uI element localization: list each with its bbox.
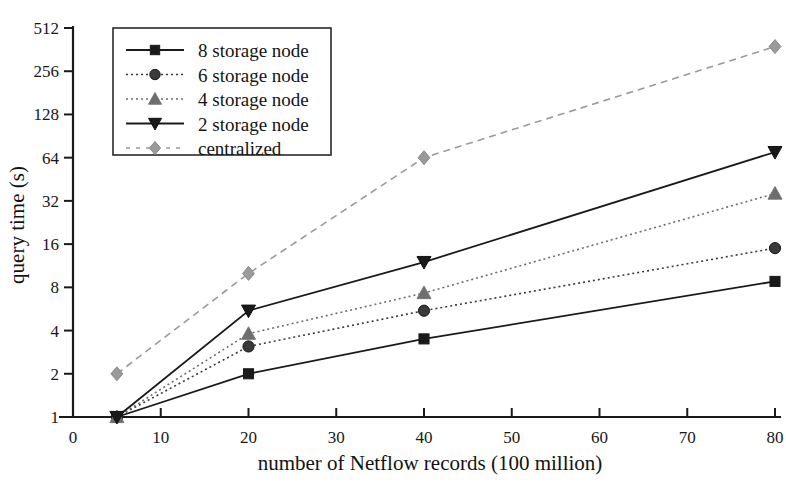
data-point-marker-square (770, 276, 780, 286)
data-point-marker-diamond (769, 40, 781, 54)
data-point-marker-diamond (111, 367, 123, 381)
series-3 (110, 146, 782, 424)
y-tick-label-256: 256 (34, 62, 60, 81)
x-tick-label-40: 40 (416, 428, 433, 447)
x-tick-label-60: 60 (591, 428, 608, 447)
series-line-0 (117, 281, 775, 417)
data-point-marker-square (419, 334, 429, 344)
query-time-line-chart: 1248163264128256512 01020304050607080 nu… (0, 0, 786, 486)
chart-legend: 8 storage node6 storage node4 storage no… (113, 28, 331, 159)
y-tick-label-16: 16 (42, 235, 59, 254)
data-point-marker-square (243, 369, 253, 379)
y-tick-label-1: 1 (51, 408, 60, 427)
data-point-marker-triangle-up (768, 187, 782, 200)
series-line-3 (117, 152, 775, 417)
y-axis-ticks: 1248163264128256512 (34, 19, 74, 427)
y-tick-label-128: 128 (34, 105, 60, 124)
data-point-marker-circle (418, 305, 429, 316)
data-point-marker-diamond (243, 266, 255, 280)
x-tick-label-30: 30 (328, 428, 345, 447)
legend-label-2: 4 storage node (198, 89, 309, 110)
legend-label-3: 2 storage node (198, 114, 309, 135)
y-tick-label-2: 2 (51, 365, 60, 384)
series-line-1 (117, 248, 775, 417)
x-tick-label-70: 70 (679, 428, 696, 447)
chart-page: 1248163264128256512 01020304050607080 nu… (0, 0, 786, 486)
x-axis-title: number of Netflow records (100 million) (258, 451, 603, 475)
data-point-marker-diamond (418, 151, 430, 165)
data-point-marker-circle (769, 243, 780, 254)
y-tick-label-4: 4 (51, 322, 60, 341)
y-tick-label-512: 512 (34, 19, 60, 38)
x-tick-label-80: 80 (767, 428, 784, 447)
series-line-2 (117, 194, 775, 417)
y-tick-label-8: 8 (51, 278, 60, 297)
legend-label-0: 8 storage node (198, 40, 309, 61)
y-tick-label-64: 64 (42, 149, 60, 168)
x-tick-label-50: 50 (503, 428, 520, 447)
series-1 (111, 243, 780, 423)
legend-label-4: centralized (198, 138, 282, 159)
x-tick-label-0: 0 (69, 428, 78, 447)
legend-label-1: 6 storage node (198, 65, 309, 86)
y-axis-title: query time (s) (5, 166, 29, 284)
series-2 (110, 187, 782, 423)
x-tick-label-20: 20 (240, 428, 257, 447)
x-axis-ticks: 01020304050607080 (69, 408, 784, 447)
x-tick-label-10: 10 (152, 428, 169, 447)
series-0 (112, 276, 780, 422)
data-point-marker-circle (150, 69, 160, 79)
data-point-marker-circle (243, 341, 254, 352)
data-point-marker-square (150, 45, 159, 54)
y-tick-label-32: 32 (42, 192, 59, 211)
